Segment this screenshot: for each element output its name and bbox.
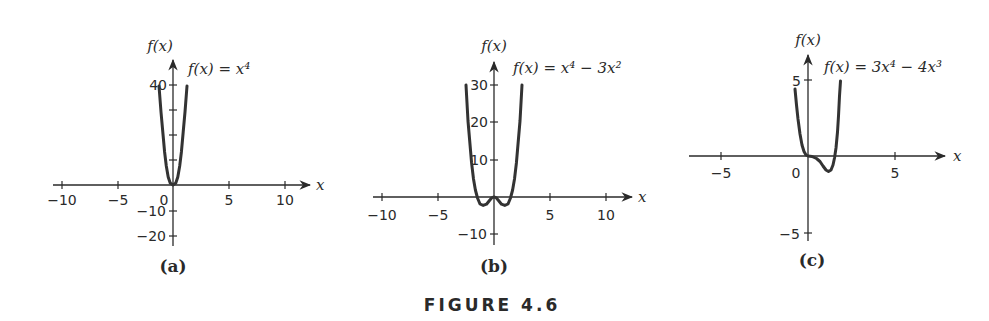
- y-tick-label: 5: [792, 73, 801, 89]
- y-tick-label: −5: [779, 226, 800, 242]
- x-tick-label: 5: [225, 192, 234, 208]
- y-tick-label: −20: [136, 228, 166, 244]
- x-tick-label: −5: [428, 207, 449, 223]
- x-tick-label: 5: [546, 207, 555, 223]
- panel-a: −10 −5 0 5 10 40 −10 −20 f(x) x f(x) = x…: [47, 37, 325, 276]
- figure-title: FIGURE 4.6: [424, 295, 560, 315]
- x-tick-label: −5: [711, 165, 732, 181]
- x-tick-label: 10: [597, 207, 615, 223]
- y-tick-label: −10: [457, 226, 487, 242]
- equation-label: f(x) = x⁴: [187, 60, 250, 78]
- x-tick-label: −10: [47, 192, 77, 208]
- x-tick-label: 10: [276, 192, 294, 208]
- figure-canvas: −10 −5 0 5 10 40 −10 −20 f(x) x f(x) = x…: [0, 0, 989, 321]
- x-tick-label: −5: [108, 192, 129, 208]
- y-axis-label: f(x): [146, 37, 173, 55]
- panel-c: −5 0 5 5 −5 f(x) x f(x) = 3x⁴ − 4x³ (c): [689, 31, 962, 270]
- equation-label: f(x) = 3x⁴ − 4x³: [823, 58, 942, 76]
- y-axis-label: f(x): [794, 31, 821, 49]
- panel-caption: (a): [159, 256, 186, 276]
- curve-c: [795, 81, 841, 172]
- x-axis-label: x: [316, 176, 325, 194]
- y-axis-label: f(x): [480, 37, 507, 55]
- y-tick-label: −10: [136, 203, 166, 219]
- x-tick-label: 0: [792, 165, 801, 181]
- equation-label: f(x) = x⁴ − 3x²: [512, 59, 621, 77]
- x-axis-label: x: [953, 147, 962, 165]
- y-tick-label: 30: [470, 77, 488, 93]
- x-tick-label: −10: [367, 207, 397, 223]
- y-tick-label: 20: [470, 114, 488, 130]
- x-tick-label: 5: [891, 165, 900, 181]
- panel-caption: (c): [799, 250, 825, 270]
- panel-b: −10 −5 5 10 30 20 10 −10 f(x) x f(x) = x…: [367, 37, 647, 276]
- x-axis-label: x: [638, 188, 647, 206]
- panel-caption: (b): [480, 256, 508, 276]
